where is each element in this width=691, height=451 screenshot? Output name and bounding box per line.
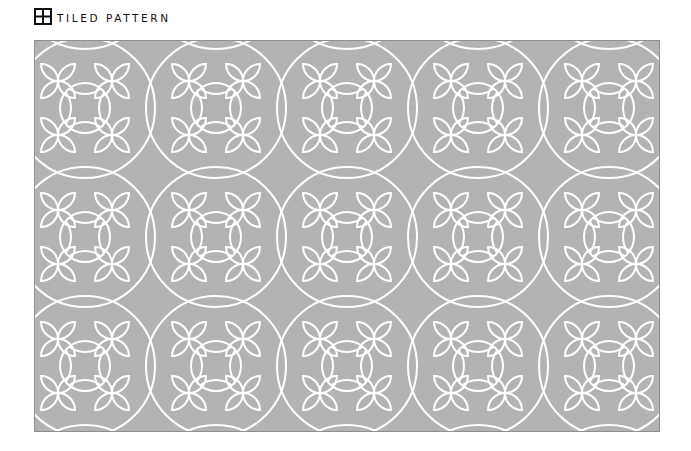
grid-2x2-icon [34, 8, 52, 25]
tiled-pattern-canvas [34, 40, 660, 432]
header: TILED PATTERN [34, 7, 171, 25]
pattern-graphic [35, 41, 660, 432]
page-title: TILED PATTERN [57, 6, 171, 27]
